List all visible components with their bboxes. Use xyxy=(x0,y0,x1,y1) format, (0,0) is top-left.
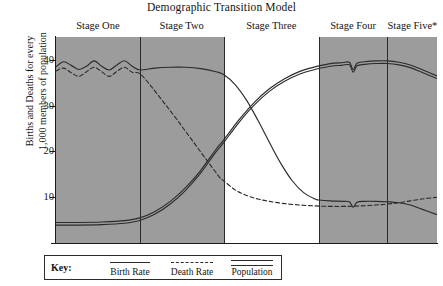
series-line-population-lower xyxy=(56,63,437,225)
stage-divider-4 xyxy=(387,37,388,243)
stage-label-2: Stage Two xyxy=(140,19,224,33)
stage-label-row: Stage OneStage TwoStage ThreeStage FourS… xyxy=(0,19,443,35)
y-tick-mark-30 xyxy=(50,106,56,107)
stage-label-3: Stage Three xyxy=(224,19,319,33)
legend-swatch-double-icon xyxy=(231,260,273,266)
series-line-birth-rate xyxy=(56,61,437,215)
y-tick-mark-10 xyxy=(50,197,56,198)
legend-swatch-wrap xyxy=(163,258,221,267)
legend-entry-population: Population xyxy=(222,258,282,278)
y-tick-mark-20 xyxy=(50,151,56,152)
legend-entry-label: Death Rate xyxy=(163,267,221,278)
series-line-death-rate xyxy=(56,67,437,206)
legend-key-label: Key: xyxy=(51,262,72,273)
legend-swatch-dashed-icon xyxy=(171,262,213,263)
legend-entry-label: Population xyxy=(222,267,282,278)
series-line-population-upper xyxy=(56,61,437,223)
stage-label-4: Stage Four xyxy=(319,19,388,33)
stage-divider-1 xyxy=(140,37,141,243)
plot-curves xyxy=(56,37,437,243)
legend-entry-death-rate: Death Rate xyxy=(163,258,221,278)
legend-key-box: Key: Birth RateDeath RatePopulation xyxy=(44,255,282,280)
y-axis-tick-labels: 10203040 xyxy=(22,0,54,286)
x-axis-line xyxy=(51,243,438,244)
legend-entry-label: Birth Rate xyxy=(101,267,159,278)
stage-divider-2 xyxy=(224,37,225,243)
legend-swatch-solid-icon xyxy=(110,262,150,263)
plot-area xyxy=(56,37,437,243)
y-tick-mark-40 xyxy=(50,60,56,61)
legend-swatch-wrap xyxy=(101,258,159,267)
legend-entry-birth-rate: Birth Rate xyxy=(101,258,159,278)
stage-label-5: Stage Five* xyxy=(387,19,437,33)
chart-title: Demographic Transition Model xyxy=(0,1,443,13)
stage-divider-3 xyxy=(319,37,320,243)
stage-label-1: Stage One xyxy=(56,19,140,33)
legend-swatch-wrap xyxy=(222,258,282,267)
